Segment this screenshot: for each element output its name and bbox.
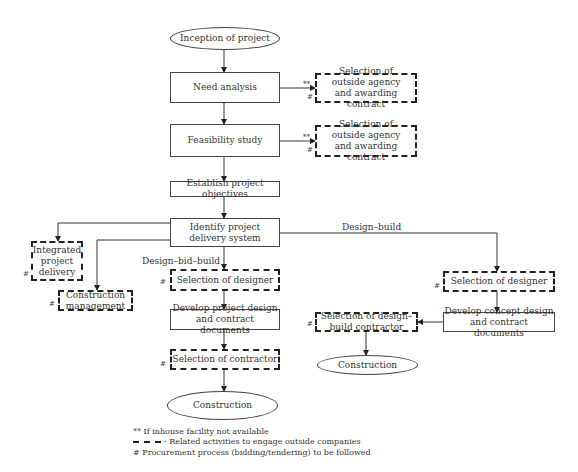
node-label: Selection of outside agency and awarding… bbox=[323, 66, 409, 110]
db-selection-of-designer-node: Selection of designer bbox=[443, 271, 555, 292]
establish-objectives-node: Establish project objectives bbox=[170, 181, 280, 197]
hash-mark: # bbox=[23, 270, 29, 278]
node-label: Need analysis bbox=[193, 82, 257, 93]
dbb-selection-of-contractor-node: Selection of contractor bbox=[170, 349, 280, 370]
node-label: Selection of designer bbox=[451, 276, 548, 287]
outside-agency-node-1: Selection of outside agency and awarding… bbox=[315, 73, 417, 103]
node-label: Selection of designer bbox=[177, 275, 274, 286]
connector-lines bbox=[0, 0, 578, 472]
double-star-mark: ** bbox=[303, 133, 310, 141]
double-star-mark: ** bbox=[303, 80, 310, 88]
dbb-develop-documents-node: Develop project design and contract docu… bbox=[170, 309, 280, 330]
node-label: Develop concept design and contract docu… bbox=[444, 306, 554, 339]
legend-double-star: ** If inhouse facility not available bbox=[133, 427, 269, 437]
node-label: Selection of contractor bbox=[173, 354, 278, 365]
hash-mark: # bbox=[307, 93, 313, 101]
hash-mark: # bbox=[434, 282, 440, 290]
inception-of-project-node: Inception of project bbox=[170, 27, 280, 50]
node-label: Construction bbox=[193, 400, 252, 411]
db-selection-of-contractor-node: Selection of design–build contractor bbox=[315, 312, 418, 332]
hash-mark: # bbox=[307, 320, 313, 328]
design-build-label: Design–build bbox=[342, 222, 401, 232]
hash-mark: # bbox=[307, 146, 313, 154]
legend-text: - Related activities to engage outside c… bbox=[164, 437, 361, 446]
node-label: Feasibility study bbox=[188, 135, 263, 146]
need-analysis-node: Need analysis bbox=[170, 72, 280, 103]
node-label: Identify project delivery system bbox=[181, 222, 269, 244]
node-label: Develop project design and contract docu… bbox=[171, 303, 279, 336]
hash-mark: # bbox=[49, 300, 55, 308]
node-label: Construction bbox=[338, 360, 397, 371]
identify-delivery-system-node: Identify project delivery system bbox=[170, 218, 280, 247]
db-develop-documents-node: Develop concept design and contract docu… bbox=[443, 312, 555, 332]
node-label: Construction management bbox=[60, 290, 131, 312]
legend-text: # Procurement process (bidding/tendering… bbox=[133, 448, 371, 457]
dbb-selection-of-designer-node: Selection of designer bbox=[170, 269, 280, 291]
dashed-line-sample-icon bbox=[133, 441, 161, 443]
dbb-construction-node: Construction bbox=[167, 391, 278, 420]
db-construction-node: Construction bbox=[317, 355, 418, 375]
legend-dashed: - Related activities to engage outside c… bbox=[133, 437, 361, 447]
design-bid-build-label: Design–bid–build bbox=[142, 256, 220, 266]
integrated-project-delivery-node: Integrated project delivery bbox=[31, 241, 83, 281]
outside-agency-node-2: Selection of outside agency and awarding… bbox=[315, 125, 417, 157]
node-label: Inception of project bbox=[180, 33, 270, 44]
node-label: Selection of outside agency and awarding… bbox=[323, 119, 409, 163]
construction-management-node: Construction management bbox=[58, 290, 133, 311]
node-label: Selection of design–build contractor bbox=[317, 311, 416, 333]
legend-hash: # Procurement process (bidding/tendering… bbox=[133, 448, 371, 458]
legend-text: ** If inhouse facility not available bbox=[133, 427, 269, 436]
hash-mark: # bbox=[160, 278, 166, 286]
hash-mark: # bbox=[160, 360, 166, 368]
feasibility-study-node: Feasibility study bbox=[170, 124, 280, 157]
node-label: Establish project objectives bbox=[171, 178, 279, 200]
procurement-flowchart: Inception of project Need analysis ** # … bbox=[0, 0, 578, 472]
node-label: Integrated project delivery bbox=[33, 245, 81, 278]
